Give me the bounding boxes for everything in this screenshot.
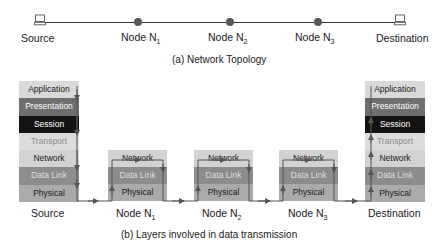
- layers-node-1-label: Node N1: [116, 207, 156, 221]
- layers-source-label: Source: [31, 207, 64, 219]
- layers-node-3-label: Node N3: [288, 207, 328, 221]
- layers-destination-label: Destination: [368, 207, 421, 219]
- layers-caption: (b) Layers involved in data transmission: [121, 229, 297, 240]
- layers-node-2-label: Node N2: [202, 207, 242, 221]
